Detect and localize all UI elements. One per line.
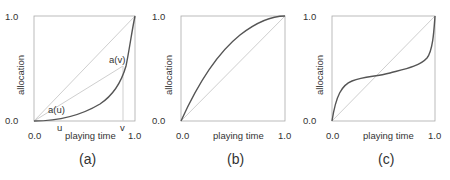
y-tick-min: 0.0: [303, 115, 316, 126]
x-axis-label: playing time: [363, 130, 414, 141]
x-axis-label: playing time: [213, 130, 264, 141]
y-axis-label: allocation: [15, 55, 26, 95]
x-tick-min: 0.0: [176, 130, 189, 141]
diagonal-line: [181, 16, 285, 121]
y-tick-max: 1.0: [5, 11, 18, 22]
u-tick: u: [57, 122, 62, 133]
y-axis-label: allocation: [163, 55, 174, 95]
x-tick-max: 1.0: [428, 130, 441, 141]
x-tick-max: 1.0: [278, 130, 291, 141]
a-v-annotation: a(v): [109, 54, 125, 65]
figure: 1.0 0.0 0.0 1.0 u v a(u) a(v) playing ti…: [0, 0, 450, 180]
y-tick-min: 0.0: [152, 115, 165, 126]
panel-a: 1.0 0.0 0.0 1.0 u v a(u) a(v) playing ti…: [5, 11, 141, 167]
a-u-annotation: a(u): [48, 104, 65, 115]
panel-c: 1.0 0.0 0.0 1.0 playing time allocation …: [303, 11, 441, 167]
caption-c: (c): [378, 151, 394, 167]
x-tick-min: 0.0: [28, 130, 41, 141]
panel-b: 1.0 0.0 0.0 1.0 playing time allocation …: [152, 11, 291, 167]
caption-b: (b): [227, 151, 244, 167]
y-tick-min: 0.0: [5, 115, 18, 126]
x-tick-min: 0.0: [326, 130, 339, 141]
x-axis-label: playing time: [65, 130, 116, 141]
v-tick: v: [120, 122, 125, 133]
caption-a: (a): [79, 151, 96, 167]
y-tick-max: 1.0: [303, 11, 316, 22]
y-axis-label: allocation: [314, 55, 325, 95]
diagonal-line: [332, 16, 435, 121]
x-tick-max: 1.0: [128, 130, 141, 141]
figure-canvas: 1.0 0.0 0.0 1.0 u v a(u) a(v) playing ti…: [0, 0, 450, 180]
y-tick-max: 1.0: [152, 11, 165, 22]
